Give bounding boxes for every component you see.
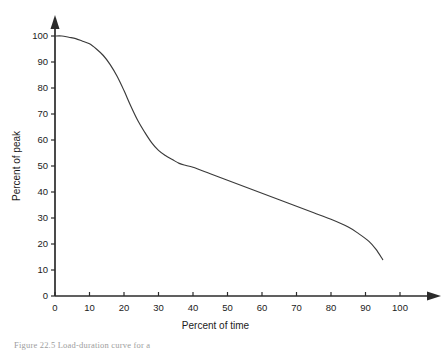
x-axis-tick-label: 100: [392, 302, 408, 313]
y-axis-tick-label: 50: [37, 160, 48, 171]
x-axis-tick-label: 50: [222, 302, 233, 313]
tick-labels-layer: 0102030405060708090100010203040506070809…: [32, 30, 408, 313]
x-axis-tick-label: 20: [119, 302, 130, 313]
y-axis-title: Percent of peak: [11, 130, 22, 201]
y-axis-tick-label: 90: [37, 56, 48, 67]
y-axis-tick-label: 60: [37, 134, 48, 145]
x-axis-title: Percent of time: [182, 320, 250, 331]
x-axis-tick-label: 80: [326, 302, 337, 313]
axes-layer: [51, 15, 442, 301]
x-axis-tick-label: 90: [360, 302, 371, 313]
y-axis-tick-label: 70: [37, 108, 48, 119]
x-axis-tick-label: 70: [291, 302, 302, 313]
ticks-layer: [51, 36, 400, 296]
x-axis-tick-label: 10: [84, 302, 95, 313]
x-axis-tick-label: 40: [188, 302, 199, 313]
data-series-layer: [55, 36, 383, 260]
y-axis-arrow-icon: [51, 15, 60, 29]
load-duration-chart: 0102030405060708090100010203040506070809…: [0, 0, 448, 353]
y-axis-tick-label: 0: [43, 290, 48, 301]
y-axis-tick-label: 40: [37, 186, 48, 197]
x-axis-tick-label: 60: [257, 302, 268, 313]
y-axis-tick-label: 20: [37, 238, 48, 249]
data-curve: [55, 36, 383, 260]
x-axis-tick-label: 30: [153, 302, 164, 313]
y-axis-tick-label: 10: [37, 264, 48, 275]
y-axis-tick-label: 80: [37, 82, 48, 93]
figure-container: 0102030405060708090100010203040506070809…: [0, 0, 448, 353]
x-axis-tick-label: 0: [52, 302, 57, 313]
x-axis-arrow-icon: [427, 292, 441, 301]
figure-caption-strip: Figure 22.5 Load-duration curve for a: [0, 339, 448, 353]
y-axis-tick-label: 30: [37, 212, 48, 223]
figure-caption: Figure 22.5 Load-duration curve for a: [14, 340, 150, 350]
y-axis-tick-label: 100: [32, 30, 48, 41]
